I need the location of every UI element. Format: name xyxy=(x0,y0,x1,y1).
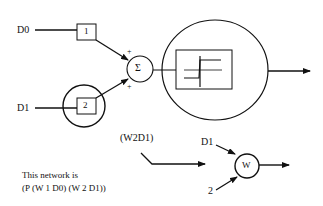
plus-bottom: + xyxy=(127,83,132,91)
weight-1-label: 1 xyxy=(84,27,89,36)
subexpression-label: (W2D1) xyxy=(120,133,153,143)
caption-line-1: This network is xyxy=(22,171,78,180)
sigma-symbol: Σ xyxy=(135,63,141,73)
w2-to-sum-arrow xyxy=(96,79,128,98)
w-input-d1-label: D1 xyxy=(201,137,213,147)
caption-line-2: (P (W 1 D0) (W 2 D1)) xyxy=(22,184,106,193)
plus-top: + xyxy=(127,48,132,56)
network-diagram: D0 D1 1 2 Σ + + (W2D1) D1 2 W This netwo… xyxy=(0,0,323,206)
threshold-box xyxy=(176,50,232,89)
subexpression-arrow xyxy=(141,153,205,164)
weight-2-label: 2 xyxy=(83,101,88,110)
w-node-label: W xyxy=(242,161,251,170)
input-d1-label: D1 xyxy=(17,103,29,113)
w-input-2-label: 2 xyxy=(208,186,213,196)
w-input-2-arrow xyxy=(216,177,237,190)
input-d0-label: D0 xyxy=(17,25,29,35)
w-input-d1-arrow xyxy=(216,145,235,154)
w1-to-sum-arrow xyxy=(96,40,128,60)
